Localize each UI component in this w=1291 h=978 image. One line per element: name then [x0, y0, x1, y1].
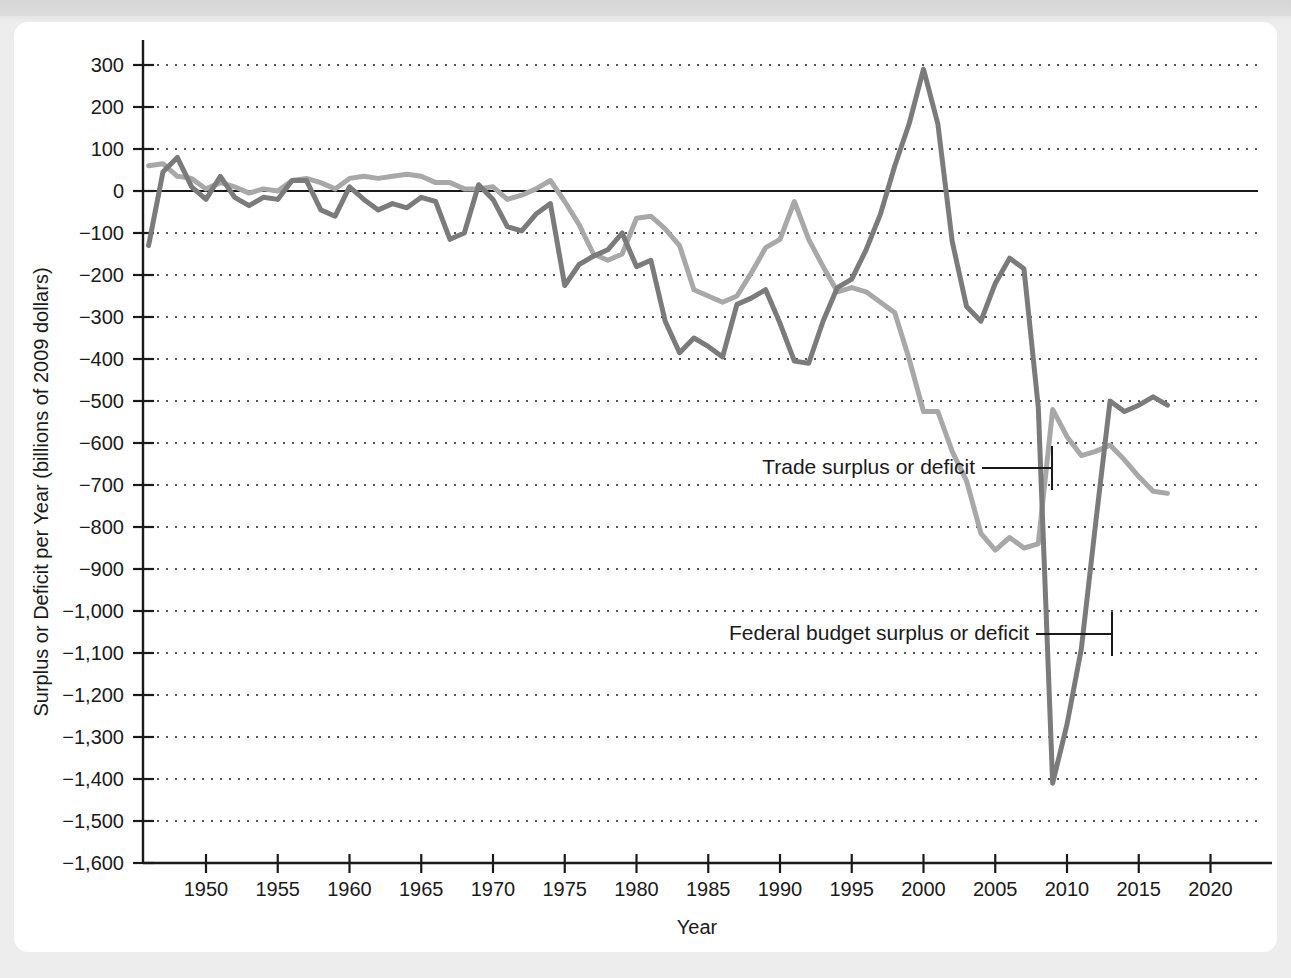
x-tick-label: 1965 — [399, 878, 444, 900]
series-line — [149, 69, 1168, 783]
y-tick-label: −1,200 — [62, 684, 124, 706]
x-tick-label: 1990 — [758, 878, 803, 900]
x-tick-label: 2000 — [901, 878, 946, 900]
x-tick-label: 1955 — [256, 878, 301, 900]
x-tick-label: 1970 — [471, 878, 516, 900]
scan-artifact — [0, 0, 1291, 16]
data-series — [149, 69, 1168, 783]
x-tick-label: 1985 — [686, 878, 731, 900]
y-tick-label: 100 — [91, 138, 124, 160]
y-axis-label: Surplus or Deficit per Year (billions of… — [30, 267, 52, 716]
annotation-label: Trade surplus or deficit — [762, 455, 975, 478]
y-tick-label: −600 — [79, 432, 124, 454]
figure-card: 3002001000−100−200−300−400−500−600−700−8… — [14, 22, 1277, 952]
series-annotations: Trade surplus or deficitFederal budget s… — [729, 446, 1112, 656]
x-tick-label: 1950 — [184, 878, 229, 900]
x-tick-label: 1980 — [614, 878, 659, 900]
y-tick-label: 200 — [91, 96, 124, 118]
y-tick-label: −1,500 — [62, 810, 124, 832]
x-axis-label: Year — [677, 916, 718, 938]
page-background: 3002001000−100−200−300−400−500−600−700−8… — [0, 0, 1291, 978]
y-tick-label: 300 — [91, 54, 124, 76]
y-tick-label: −1,300 — [62, 726, 124, 748]
y-tick-label: 0 — [113, 180, 124, 202]
series-line — [149, 164, 1168, 550]
y-tick-label: −1,100 — [62, 642, 124, 664]
annotation-label: Federal budget surplus or deficit — [729, 621, 1029, 644]
y-tick-label: −300 — [79, 306, 124, 328]
y-tick-label: −1,600 — [62, 852, 124, 874]
y-tick-label: −800 — [79, 516, 124, 538]
x-axis-ticks: 1950195519601965197019751980198519901995… — [184, 854, 1233, 900]
y-tick-label: −1,000 — [62, 600, 124, 622]
x-tick-label: 2010 — [1045, 878, 1090, 900]
line-chart: 3002001000−100−200−300−400−500−600−700−8… — [14, 22, 1277, 952]
y-tick-label: −200 — [79, 264, 124, 286]
x-tick-label: 2005 — [973, 878, 1018, 900]
x-tick-label: 1995 — [830, 878, 875, 900]
x-tick-label: 2020 — [1188, 878, 1233, 900]
y-tick-label: −500 — [79, 390, 124, 412]
x-tick-label: 1975 — [543, 878, 588, 900]
x-tick-label: 2015 — [1117, 878, 1162, 900]
y-tick-label: −400 — [79, 348, 124, 370]
y-tick-label: −100 — [79, 222, 124, 244]
x-tick-label: 1960 — [327, 878, 372, 900]
y-tick-label: −900 — [79, 558, 124, 580]
y-tick-label: −1,400 — [62, 768, 124, 790]
y-axis-ticks: 3002001000−100−200−300−400−500−600−700−8… — [62, 54, 154, 874]
y-tick-label: −700 — [79, 474, 124, 496]
